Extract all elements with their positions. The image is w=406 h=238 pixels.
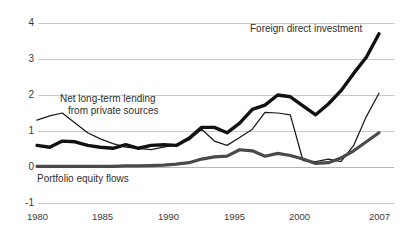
chart-container: 4 3 2 1 0 -1 1980 1985 1990 1995 2000 20… <box>0 0 406 238</box>
plot-area <box>0 0 406 238</box>
annotation-foreign-direct-investment: Foreign direct investment <box>250 23 362 35</box>
annotation-net-long-term-lending: Net long-term lending from private sourc… <box>60 93 159 117</box>
series-line-portfolio-equity-flows <box>37 133 379 166</box>
series-line-foreign-direct-investment <box>37 34 379 148</box>
annotation-lending-line1: Net long-term lending <box>60 93 159 105</box>
annotation-lending-line2: from private sources <box>60 105 159 117</box>
annotation-portfolio-equity-flows: Portfolio equity flows <box>37 173 129 185</box>
